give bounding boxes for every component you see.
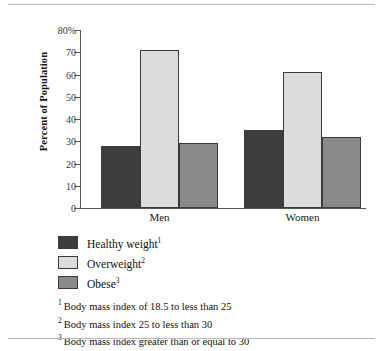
x-tick-label-men: Men — [149, 211, 169, 223]
legend-label: Obese3 — [87, 276, 120, 290]
legend-item-overweight: Overweight2 — [58, 253, 348, 272]
chart-legend: Healthy weight1Overweight2Obese3 — [58, 233, 348, 293]
bottom-divider-rule — [8, 338, 375, 339]
y-tick-mark — [74, 186, 80, 187]
legend-swatch-icon — [58, 276, 78, 289]
x-axis-line — [80, 208, 366, 209]
bar-men-healthy-weight — [101, 146, 140, 208]
footnote-2: 2Body mass index 25 to less than 30 — [58, 314, 368, 332]
footnote-text: Body mass index 25 to less than 30 — [64, 318, 212, 329]
bar-men-overweight — [140, 50, 179, 208]
y-tick-mark — [74, 208, 80, 209]
y-tick-mark — [74, 164, 80, 165]
legend-label-text: Overweight — [87, 257, 141, 269]
plot-area: Percent of Population 80%706050403020100… — [14, 18, 369, 223]
bar-women-obese — [322, 137, 361, 208]
footnote-marker: 2 — [58, 316, 62, 325]
legend-item-obese: Obese3 — [58, 273, 348, 292]
legend-swatch-icon — [58, 256, 78, 269]
y-tick-mark — [74, 141, 80, 142]
y-tick-mark — [74, 75, 80, 76]
legend-label: Healthy weight1 — [87, 236, 161, 250]
legend-label-text: Obese — [87, 277, 116, 289]
y-tick-mark — [74, 52, 80, 53]
y-tick-mark — [74, 30, 80, 31]
chart-footnotes: 1Body mass index of 18.5 to less than 25… — [58, 296, 368, 349]
legend-item-healthy-weight: Healthy weight1 — [58, 233, 348, 252]
y-tick-mark — [74, 97, 80, 98]
legend-label: Overweight2 — [87, 256, 145, 270]
legend-label-text: Healthy weight — [87, 237, 158, 249]
bar-chart-figure: Percent of Population 80%706050403020100… — [0, 8, 383, 344]
bar-men-obese — [179, 143, 218, 208]
legend-footnote-marker: 1 — [158, 236, 162, 245]
footnote-1: 1Body mass index of 18.5 to less than 25 — [58, 296, 368, 314]
bar-women-healthy-weight — [244, 130, 283, 208]
legend-footnote-marker: 2 — [141, 256, 145, 265]
footnote-text: Body mass index of 18.5 to less than 25 — [64, 301, 232, 312]
footnote-3: 3Body mass index greater than or equal t… — [58, 331, 368, 349]
footnote-marker: 1 — [58, 298, 62, 307]
y-tick-mark — [74, 119, 80, 120]
legend-footnote-marker: 3 — [116, 276, 120, 285]
top-divider-rule — [8, 4, 375, 5]
bar-women-overweight — [283, 72, 322, 208]
x-tick-label-women: Women — [286, 211, 320, 223]
y-axis-tick-labels: 80%706050403020100 — [42, 18, 76, 208]
bar-group-container — [81, 30, 366, 208]
legend-swatch-icon — [58, 236, 78, 249]
x-axis-category-labels: MenWomen — [81, 211, 366, 231]
